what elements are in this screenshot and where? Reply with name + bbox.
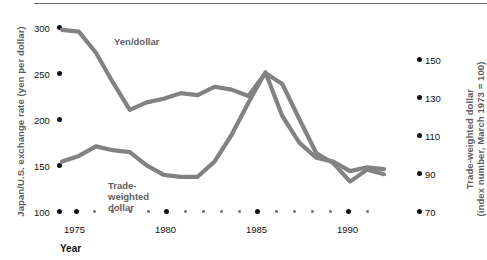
plot-area <box>0 0 487 260</box>
series-line-yen-dollar <box>62 30 384 182</box>
series-label-twd-line3: dollar <box>108 202 149 213</box>
series-label-twd-line2: weighted <box>108 191 149 202</box>
chart-figure: Japan/U.S. exchange rate (yen per dollar… <box>0 0 487 260</box>
series-label-yen-dollar: Yen/dollar <box>114 36 159 47</box>
series-label-twd-line1: Trade- <box>108 180 149 191</box>
series-label-trade-weighted-dollar: Trade- weighted dollar <box>108 180 149 213</box>
series-label-yen-dollar-text: Yen/dollar <box>114 36 159 47</box>
